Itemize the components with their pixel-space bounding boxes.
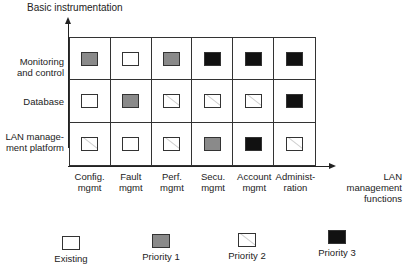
p2-square-icon	[238, 233, 256, 247]
existing-square-icon	[81, 94, 98, 108]
column-label: Config.mgmt	[68, 171, 112, 193]
legend-item-p2: Priority 2	[217, 233, 277, 261]
column-label-line: Fault	[109, 171, 153, 182]
row-label-monitoring: Monitoring and control	[2, 56, 64, 78]
p2-square-icon	[163, 137, 180, 151]
column-label: Secu.mgmt	[191, 171, 235, 193]
matrix-cell	[111, 80, 152, 122]
existing-square-icon	[122, 137, 139, 151]
column-label-line: mgmt	[232, 182, 276, 193]
p3-square-icon	[245, 137, 262, 151]
matrix-cell	[70, 80, 111, 122]
matrix-cell	[274, 123, 315, 165]
column-label-line: mgmt	[150, 182, 194, 193]
p1-square-icon	[163, 52, 180, 66]
p1-square-icon	[81, 52, 98, 66]
x-axis-title-line: functions	[330, 193, 402, 204]
column-label-line: mgmt	[68, 182, 112, 193]
row-label-line: LAN manage-	[2, 131, 64, 142]
matrix-cell	[192, 123, 233, 165]
p2-square-icon	[81, 137, 98, 151]
p2-square-icon	[245, 94, 262, 108]
p2-square-icon	[286, 137, 303, 151]
matrix-cell	[274, 38, 315, 80]
y-axis-title: Basic instrumentation	[27, 2, 123, 13]
column-label-line: Config.	[68, 171, 112, 182]
x-axis-arrow-icon	[329, 163, 336, 169]
legend-item-p1: Priority 1	[131, 234, 191, 262]
x-axis-title: LAN management functions	[330, 171, 402, 204]
row-label-line: Database	[2, 96, 64, 107]
matrix-cell	[70, 38, 111, 80]
legend-label: Priority 2	[228, 250, 265, 261]
column-label-line: ration	[273, 182, 317, 193]
matrix-cell	[111, 123, 152, 165]
matrix-cell	[152, 80, 193, 122]
column-label: Faultmgmt	[109, 171, 153, 193]
p2-square-icon	[163, 94, 180, 108]
legend-label: Existing	[54, 253, 87, 264]
p1-square-icon	[152, 234, 170, 248]
p3-square-icon	[286, 94, 303, 108]
existing-square-icon	[62, 236, 80, 250]
existing-square-icon	[122, 52, 139, 66]
matrix-cell	[233, 123, 274, 165]
legend-item-existing: Existing	[41, 236, 101, 264]
legend-label: Priority 1	[142, 251, 179, 262]
legend-item-p3: Priority 3	[307, 230, 367, 258]
p3-square-icon	[286, 52, 303, 66]
row-label-line: and control	[2, 67, 64, 78]
column-label-line: Perf.	[150, 171, 194, 182]
x-axis-title-line: LAN management	[330, 171, 402, 193]
p3-square-icon	[204, 52, 221, 66]
column-label-line: Account	[232, 171, 276, 182]
x-axis	[68, 166, 330, 167]
p3-square-icon	[328, 230, 346, 244]
column-label-line: Secu.	[191, 171, 235, 182]
matrix-cell	[192, 80, 233, 122]
p1-square-icon	[122, 94, 139, 108]
column-label: Perf.mgmt	[150, 171, 194, 193]
matrix-cell	[192, 38, 233, 80]
matrix-cell	[152, 123, 193, 165]
column-label-line: mgmt	[191, 182, 235, 193]
matrix-cell	[274, 80, 315, 122]
column-label-line: Administ-	[273, 171, 317, 182]
column-label-line: mgmt	[109, 182, 153, 193]
p1-square-icon	[204, 137, 221, 151]
column-label: Administ-ration	[273, 171, 317, 193]
matrix-cell	[111, 38, 152, 80]
matrix-cell	[233, 80, 274, 122]
row-label-line: ment platform	[2, 142, 64, 153]
matrix-cell	[233, 38, 274, 80]
priority-matrix	[69, 37, 316, 166]
column-label: Accountmgmt	[232, 171, 276, 193]
p3-square-icon	[245, 52, 262, 66]
matrix-cell	[152, 38, 193, 80]
legend-label: Priority 3	[318, 247, 355, 258]
p2-square-icon	[204, 94, 221, 108]
row-label-lan-platform: LAN manage- ment platform	[2, 131, 64, 153]
matrix-cell	[70, 123, 111, 165]
row-label-database: Database	[2, 96, 64, 107]
row-label-line: Monitoring	[2, 56, 64, 67]
